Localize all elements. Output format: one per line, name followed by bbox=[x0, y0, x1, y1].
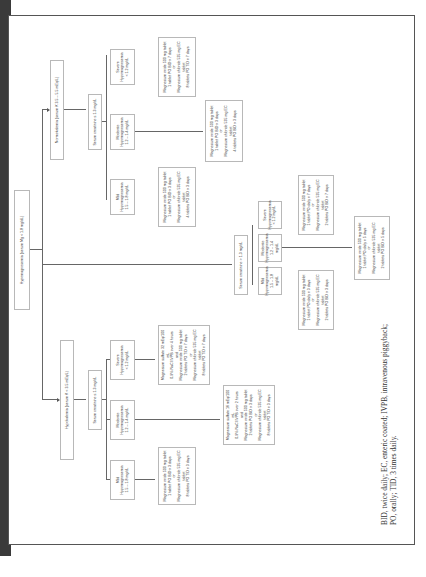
connector bbox=[252, 225, 253, 285]
severity-range: < 1.2 mg/dL bbox=[125, 350, 130, 369]
connector bbox=[135, 419, 220, 420]
tx-line: Magnesium chloride 535 mg EC tablet bbox=[372, 218, 381, 278]
tx-line: 4 tablets PO BID x 3 days bbox=[233, 110, 238, 151]
hypokalemia-label: Hypokalemia (serum K < 3.5 mEq/L) bbox=[65, 371, 70, 429]
tx-line: 2 tablets PO BID x 5 days bbox=[381, 227, 386, 268]
connector bbox=[30, 249, 42, 250]
severity-box-moderate: ModerateHypomagnesemia1.2 – 1.4 mg/dL bbox=[110, 400, 135, 440]
connector bbox=[282, 247, 352, 248]
severity-range: 1.2 – 1.4 mg/dL bbox=[125, 120, 130, 145]
root-box: Hypomagnesemia (serum Mg < 1.8 mg/dL) bbox=[14, 190, 30, 310]
creatinine-normo-box: Serum creatinine ≤ 1.3 mg/dL bbox=[88, 94, 102, 150]
creatinine-low-box: Serum creatinine ≤ 1.3 mg/dL bbox=[88, 370, 102, 430]
severity-range: < 1.2 mg/dL bbox=[125, 57, 130, 76]
tx-line: 2 tablets PO BID x 3 days bbox=[325, 279, 330, 320]
connector bbox=[106, 55, 107, 200]
creatinine-high-box: Serum creatinine > 1.3 mg/dL bbox=[234, 235, 248, 295]
tx-line: Magnesium chloride 535 mg EC tablet bbox=[177, 449, 186, 503]
normokalemia-label: Normokalemia (serum K 3.5 – 5.5 mEq/L) bbox=[55, 77, 60, 143]
treatment-box-severe: Magnesium sulfate 32 mEq/100 mL0.9% NaCl… bbox=[158, 325, 210, 385]
treatment-box-moderate: Magnesium sulfate 16 mEq/100 mL0.9% NaCl… bbox=[223, 385, 275, 445]
tx-line: Magnesium chloride 535 mg EC tablet bbox=[224, 102, 233, 160]
hypokalemia-box: Hypokalemia (serum K < 3.5 mEq/L) bbox=[60, 340, 74, 460]
connector bbox=[106, 360, 107, 480]
tx-line: Magnesium chloride 535 mg EC tablet bbox=[316, 272, 325, 328]
tx-line: Magnesium sulfate 16 mEq/100 mL bbox=[226, 387, 235, 443]
rotated-figure: Hypomagnesemia (serum Mg < 1.8 mg/dL) Hy… bbox=[8, 15, 415, 545]
tx-line: Magnesium chloride 535 mg EC tablet bbox=[177, 39, 186, 95]
severity-box-severe: SevereHypomagnesemia< 1.2 mg/dL bbox=[110, 340, 135, 380]
tx-line: Magnesium chloride 535 mg EC tablet bbox=[258, 387, 267, 443]
severity-range: 1.2 – 1.4 mg/dL bbox=[125, 408, 130, 433]
treatment-box-mild-normo: Magnesium oxide 500 mg tablet1 tablet PO… bbox=[158, 167, 196, 227]
creatinine-label: Serum creatinine > 1.3 mg/dL bbox=[239, 241, 244, 288]
severity-box-mild: MildHypomagnesemia1.5 – 1.8 mg/dL bbox=[110, 460, 135, 500]
treatment-box-mild: Magnesium oxide 500 mg tablet1 tablet PO… bbox=[158, 447, 196, 505]
connector bbox=[135, 479, 155, 480]
tx-line: 2 tablets PO BID x 7 days bbox=[325, 184, 330, 225]
creatinine-label: Serum creatinine ≤ 1.3 mg/dL bbox=[93, 98, 98, 145]
treatment-box-high-mild: Magnesium oxide 500 mg tablet1 tablet PO… bbox=[298, 270, 334, 330]
severity-box-mild-normo: MildHypomagnesemia1.5 – 1.8 mg/dL bbox=[110, 179, 135, 215]
tx-line: 8 tablets PO TID x 7 days bbox=[186, 47, 191, 88]
tx-line: Magnesium chloride 535 mg EC tablet bbox=[193, 327, 202, 383]
tx-line: 8 tablets PO TID x 3 days bbox=[186, 456, 191, 497]
severity-box-moderate-normo: ModerateHypomagnesemia1.2 – 1.4 mg/dL bbox=[110, 114, 135, 150]
connector bbox=[42, 110, 43, 400]
connector bbox=[135, 359, 155, 360]
tx-line: Magnesium sulfate 32 mEq/100 mL bbox=[161, 327, 170, 383]
connector bbox=[74, 399, 86, 400]
severity-range: < 1.2 mg/dL bbox=[272, 205, 277, 224]
severity-box-mild-high: MildHypomagnesemia1.5 – 1.8 mg/dL bbox=[258, 267, 282, 295]
treatment-box-severe-normo: Magnesium oxide 500 mg tablet1 tablet PO… bbox=[158, 37, 196, 97]
treatment-box-moderate-normo: Magnesium oxide 500 mg tablet1 tablet PO… bbox=[205, 100, 243, 162]
root-label: Hypomagnesemia (serum Mg < 1.8 mg/dL) bbox=[20, 216, 25, 284]
treatment-box-high-moderate: Magnesium oxide 500 mg tablet1 tablet PO… bbox=[354, 216, 390, 280]
connector bbox=[42, 264, 232, 265]
severity-box-moderate-high: ModerateHypomagnesemia1.2 – 1.4 mg/dL bbox=[258, 234, 282, 262]
tx-line: Magnesium chloride 535 mg EC tablet bbox=[316, 177, 325, 233]
severity-box-severe-normo: SevereHypomagnesemia< 1.2 mg/dL bbox=[110, 49, 135, 85]
normokalemia-box: Normokalemia (serum K 3.5 – 5.5 mEq/L) bbox=[50, 60, 64, 160]
creatinine-label: Serum creatinine ≤ 1.3 mg/dL bbox=[93, 376, 98, 423]
tx-line: 8 tablets PO TID x 3 days bbox=[267, 395, 272, 436]
tx-line: 4 tablets PO BID x 3 days bbox=[186, 176, 191, 217]
severity-range: 1.5 – 1.8 mg/dL bbox=[125, 185, 130, 210]
connector bbox=[102, 121, 106, 122]
severity-box-severe-high: SevereHypomagnesemia< 1.2 mg/dL bbox=[258, 201, 282, 229]
connector bbox=[42, 399, 58, 400]
connector bbox=[135, 131, 203, 132]
treatment-box-high-severe: Magnesium oxide 500 mg tablet1 tablet PO… bbox=[298, 175, 334, 235]
figure-frame bbox=[8, 15, 415, 545]
connector bbox=[64, 109, 86, 110]
severity-range: 1.2 – 1.4 mg/dL bbox=[270, 236, 279, 260]
footnote: BID, twice daily; EC, enteric coated; IV… bbox=[380, 315, 398, 525]
severity-range: 1.5 – 1.8 mg/dL bbox=[270, 269, 279, 293]
severity-range: 1.5 – 1.8 mg/dL bbox=[125, 468, 130, 493]
tx-line: 8 tablets PO TID x 7 days bbox=[202, 335, 207, 376]
tx-line: Magnesium chloride 535 mg EC tablet bbox=[177, 169, 186, 225]
